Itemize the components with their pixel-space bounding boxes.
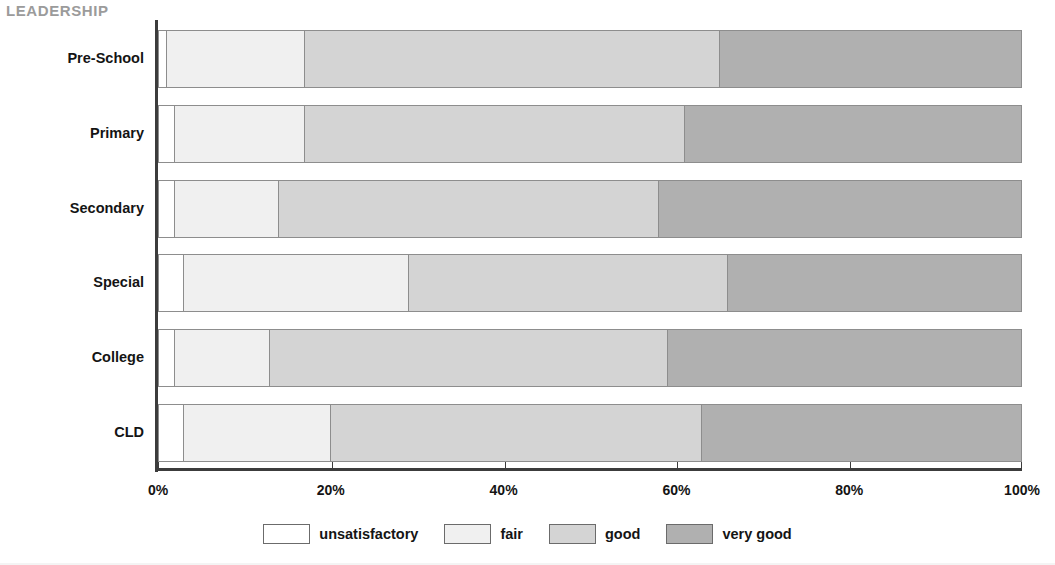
bar-segment-fair [175,329,270,387]
bar-segment-good [305,30,720,88]
legend-label-fair: fair [500,526,523,542]
y-axis-label-secondary: Secondary [0,200,144,216]
bar-segment-very-good [668,329,1022,387]
bar-segment-very-good [685,105,1022,163]
bar-segment-unsatisfactory [158,30,167,88]
bar-segment-good [305,105,685,163]
page-title: LEADERSHIP [6,2,109,19]
y-axis-label-special: Special [0,274,144,290]
bar-segment-good [279,180,659,238]
bar-segment-unsatisfactory [158,329,175,387]
legend-label-very-good: very good [722,526,791,542]
bar-segment-unsatisfactory [158,180,175,238]
legend-swatch-good [549,524,596,544]
bar-segment-fair [175,105,305,163]
bar-segment-fair [184,254,409,312]
bar-row [158,105,1022,163]
legend-swatch-very-good [666,524,713,544]
legend-swatch-fair [444,524,491,544]
bar-segment-fair [167,30,305,88]
bar-segment-very-good [702,404,1022,462]
y-axis-label-college: College [0,349,144,365]
bar-segment-fair [184,404,331,462]
x-tick-label-60: 60% [631,482,721,498]
legend-item-fair[interactable]: fair [444,524,523,544]
bar-segment-very-good [728,254,1022,312]
y-axis-label-pre-school: Pre-School [0,50,144,66]
y-axis-label-cld: CLD [0,424,144,440]
legend-item-very-good[interactable]: very good [666,524,791,544]
legend-swatch-unsatisfactory [263,524,310,544]
bar-segment-fair [175,180,279,238]
x-tick-label-20: 20% [286,482,376,498]
bar-row [158,404,1022,462]
x-tick-label-0: 0% [113,482,203,498]
x-tick-label-80: 80% [804,482,894,498]
bar-segment-unsatisfactory [158,105,175,163]
bar-segment-good [331,404,703,462]
bar-segment-unsatisfactory [158,404,184,462]
legend-label-good: good [605,526,640,542]
bar-row [158,30,1022,88]
bar-row [158,180,1022,238]
chart-legend: unsatisfactoryfairgoodvery good [0,524,1055,544]
legend-label-unsatisfactory: unsatisfactory [319,526,418,542]
y-axis-label-primary: Primary [0,125,144,141]
bar-segment-good [409,254,729,312]
legend-item-good[interactable]: good [549,524,640,544]
bar-segment-good [270,329,667,387]
bar-segment-very-good [720,30,1022,88]
bar-segment-unsatisfactory [158,254,184,312]
bar-row [158,329,1022,387]
legend-item-unsatisfactory[interactable]: unsatisfactory [263,524,418,544]
bar-segment-very-good [659,180,1022,238]
x-tick-label-100: 100% [977,482,1055,498]
x-tick-label-40: 40% [459,482,549,498]
plot-area [158,22,1022,470]
bar-row [158,254,1022,312]
